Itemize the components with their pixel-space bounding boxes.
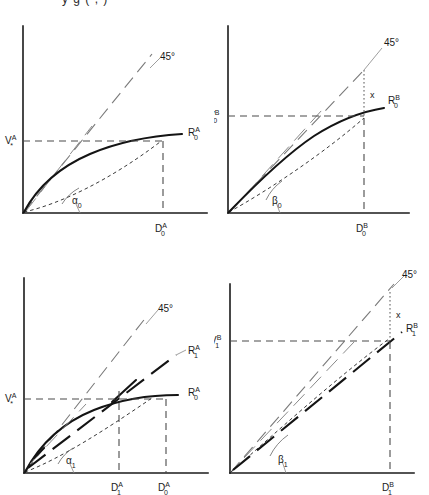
figure-root: y g ( , ) 45° VA* RA0 DA0 α0 [0,0,429,495]
clipped-caption-text: y g ( , ) [62,0,108,6]
label-D0B-top-right: DB0 [356,222,368,237]
label-R0A-bottom-left: RA0 [188,386,200,401]
label-gap-x-bottom-right: x [396,310,401,320]
label-D0A-top-left: DA0 [155,222,167,237]
label-R1A-bottom-left: RA1 [188,344,200,359]
label-45-degree-bottom-right: 45° [402,269,417,280]
label-45-degree-top-right: 45° [384,37,399,48]
panel-top-right: 45° VB0 RB0 DB0 β0 x [214,8,429,248]
curve-R0B [229,108,384,212]
label-beta1: β1 [278,454,288,468]
label-gap-x-top-right: x [370,90,375,100]
panel-top-left: 45° VA* RA0 DA0 α0 [0,8,215,248]
leader-45-degree [364,48,382,70]
chord-curve [231,338,390,472]
tangent-ray-beta1 [244,342,354,458]
curve-R0A [24,134,182,212]
line-45-degree [231,284,394,472]
label-beta0: β0 [272,195,282,209]
tangent-ray-alpha0 [26,126,92,211]
label-alpha0: α0 [72,195,82,209]
panel-bottom-right: 45° VB1 RB1 DB1 β1 x [214,262,429,495]
label-R1B-bottom-right: RB1 [406,322,418,337]
label-V0B-top-right: VB0 [214,109,220,124]
leader-R1A [176,350,186,355]
label-R0A-top-left: RA0 [188,126,200,141]
leader-45-degree [150,58,160,68]
label-V-star-A-bottom-left: VA* [5,392,17,407]
curve-R1A [28,355,176,468]
curve-R0A [25,395,178,472]
label-45-degree-bottom-left: 45° [158,303,173,314]
label-R0B-top-right: RB0 [388,94,400,109]
label-alpha1: α1 [66,455,76,469]
label-V-star-A-top-left: VA* [5,134,17,149]
chord-curve [25,398,152,472]
label-45-degree-top-left: 45° [160,51,175,62]
label-D0A-bottom-left: DA0 [158,481,170,495]
label-V1B-bottom-right: VB1 [214,334,222,349]
panel-bottom-left: 45° RA1 VA* RA0 DA1 DA0 α1 [0,262,215,495]
leader-45-degree [146,310,158,324]
label-D1A-bottom-left: DA1 [111,481,123,495]
chord-curve [229,118,364,212]
curve-R1B [233,332,402,470]
label-D1B-bottom-right: DB1 [382,481,394,495]
